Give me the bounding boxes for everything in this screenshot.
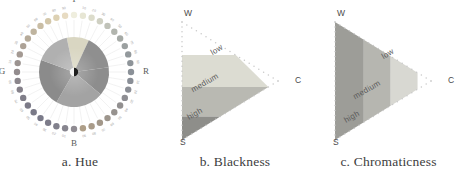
hue-ring-tick-label: 70 — [42, 12, 47, 17]
triangle-scale-dot — [421, 86, 423, 88]
hue-ring-tick-label: 90 — [62, 6, 66, 11]
hue-ring-swatch — [117, 35, 123, 41]
triangle-scale-dot — [334, 105, 336, 107]
triangle-scale-dot — [186, 24, 188, 26]
hue-ring-tick-label: 10 — [8, 60, 13, 64]
hue-ring-swatch — [122, 43, 128, 49]
triangle-scale-dot — [200, 33, 202, 35]
triangle-scale-dot — [205, 125, 207, 127]
triangle-scale-dot — [258, 92, 260, 94]
triangle-scale-dot — [181, 70, 183, 72]
hue-ring-tick-label: 20 — [133, 90, 138, 95]
triangle-scale-dot — [181, 51, 183, 53]
triangle-scale-dot — [272, 83, 274, 85]
vertex-label-w: W — [337, 8, 345, 18]
triangle-scale-dot — [334, 110, 336, 112]
triangle-scale-dot — [334, 70, 336, 72]
vertex-label-c: C — [295, 75, 301, 85]
triangle-scale-dot — [239, 57, 241, 59]
hue-ring-tick-label: 10 — [82, 6, 86, 11]
hue-ring-tick-label: 70 — [101, 127, 106, 132]
hue-ring-swatch — [97, 120, 103, 126]
blackness-band-low — [182, 55, 268, 87]
triangle-scale-dot — [430, 80, 432, 82]
triangle-scale-dot — [416, 71, 418, 73]
triangle-scale-dot — [239, 104, 241, 106]
triangle-scale-dot — [377, 113, 379, 115]
triangle-scale-dot — [248, 98, 250, 100]
triangle-scale-dot — [181, 134, 183, 136]
triangle-scale-dot — [181, 41, 183, 43]
caption-blackness: b. Blackness — [160, 154, 310, 170]
blackness-bands — [182, 55, 268, 140]
triangle-scale-dot — [334, 31, 336, 33]
hue-ring-swatch — [53, 123, 59, 129]
triangle-scale-dot — [244, 60, 246, 62]
triangle-scale-dot — [181, 46, 183, 48]
triangle-scale-dot — [334, 21, 336, 23]
hue-ring-swatch — [80, 13, 86, 19]
hue-ring-swatch — [125, 86, 131, 92]
hue-ring-tick-label: 90 — [136, 60, 141, 64]
triangle-scale-dot — [181, 115, 183, 117]
hue-ring-tick-label: 20 — [92, 8, 97, 13]
hue-ring-tick-label: 20 — [10, 50, 15, 55]
triangle-scale-dot — [344, 27, 346, 29]
triangle-scale-dot — [191, 27, 193, 29]
hue-ring-tick-label: 30 — [42, 127, 47, 132]
hue-ring-tick-label: 30 — [101, 12, 106, 17]
triangle-scale-dot — [334, 36, 336, 38]
triangle-scale-dot — [358, 36, 360, 38]
hue-ring-swatch — [122, 95, 128, 101]
hue-ring-tick-label: 20 — [52, 131, 57, 136]
triangle-scale-dot — [334, 125, 336, 127]
triangle-scale-dot — [411, 68, 413, 70]
hue-ring-tick-label: 90 — [8, 80, 13, 84]
hue-ring-tick-label: 30 — [14, 40, 19, 45]
triangle-scale-dot — [248, 63, 250, 65]
triangle-scale-dot — [181, 95, 183, 97]
triangle-scale-dot — [421, 74, 423, 76]
triangle-scale-dot — [210, 39, 212, 41]
triangle-scale-dot — [334, 115, 336, 117]
hue-ring-tick-label: 80 — [91, 131, 96, 136]
triangle-scale-dot — [181, 129, 183, 131]
hue-cardinal-label-g: G — [0, 66, 6, 76]
triangle-scale-dot — [210, 122, 212, 124]
hue-ring-tick-label: 50 — [117, 24, 123, 30]
hue-ring-swatch — [71, 126, 77, 132]
triangle-scale-dot — [224, 113, 226, 115]
triangle-scale-dot — [334, 100, 336, 102]
triangle-scale-dot — [353, 33, 355, 35]
triangle-scale-dot — [181, 100, 183, 102]
hue-ring-tick-label: 70 — [14, 99, 19, 104]
hue-ring-swatch — [62, 125, 68, 131]
hue-ring-swatch — [17, 86, 23, 92]
hue-ring-swatch — [25, 102, 31, 108]
triangle-scale-dot — [277, 80, 279, 82]
triangle-scale-dot — [215, 119, 217, 121]
triangle-scale-dot — [349, 30, 351, 32]
triangle-scale-dot — [272, 77, 274, 79]
panel-blackness: W S C lowmediumhigh b. Blackness — [160, 0, 310, 178]
triangle-scale-dot — [406, 95, 408, 97]
triangle-scale-dot — [397, 60, 399, 62]
triangle-scale-dot — [181, 85, 183, 87]
triangle-scale-dot — [263, 89, 265, 91]
hue-ring-swatch — [15, 78, 21, 84]
triangle-scale-dot — [181, 120, 183, 122]
triangle-scale-dot — [377, 48, 379, 50]
hue-ring-swatch — [80, 125, 86, 131]
triangle-scale-dot — [373, 116, 375, 118]
triangle-scale-dot — [258, 68, 260, 70]
hue-ring-tick-label: 60 — [33, 17, 38, 23]
hue-ring-swatch — [20, 95, 26, 101]
triangle-scale-dot — [425, 77, 427, 79]
hue-ring-swatch — [37, 23, 43, 29]
triangle-scale-dot — [344, 133, 346, 135]
triangle-scale-dot — [181, 56, 183, 58]
triangle-scale-dot — [181, 31, 183, 33]
triangle-scale-dot — [392, 57, 394, 59]
wheel-center-dot — [70, 68, 78, 76]
triangle-scale-dot — [334, 80, 336, 82]
